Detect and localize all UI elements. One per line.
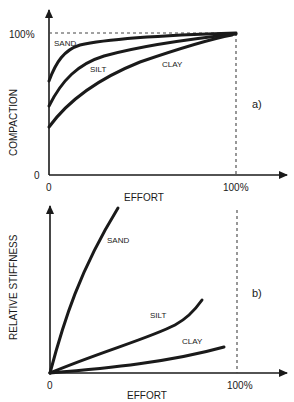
y-axis-label: COMPACTION [8,89,19,156]
series-label-silt: SILT [90,65,106,74]
series-label-clay: CLAY [182,337,203,346]
curve-clay-stiffness [50,347,224,373]
panel-label-b: b) [252,287,262,299]
x-tick-0: 0 [46,182,52,193]
x-axis-label: EFFORT [124,192,164,203]
series-label-clay: CLAY [162,60,183,69]
y-tick-100: 100% [9,29,35,40]
curve-silt-stiffness [50,300,202,373]
curve-sand-stiffness [50,208,118,373]
y-axis-label: RELATIVE STIFFNESS [8,234,19,340]
figure: 100% 0 0 100% EFFORT COMPACTION SAND SIL… [0,0,294,402]
series-label-sand: SAND [107,236,129,245]
panel-label-a: a) [252,98,262,110]
series-label-silt: SILT [150,311,166,320]
series-label-sand: SAND [54,39,76,48]
y-tick-0: 0 [34,170,40,181]
x-axis-label: EFFORT [127,390,167,401]
x-tick-100: 100% [223,182,249,193]
x-tick-0: 0 [47,380,53,391]
chart-stiffness: 0 100% EFFORT RELATIVE STIFFNESS SAND SI… [8,206,287,401]
x-tick-100: 100% [227,380,253,391]
chart-compaction: 100% 0 0 100% EFFORT COMPACTION SAND SIL… [8,10,287,203]
